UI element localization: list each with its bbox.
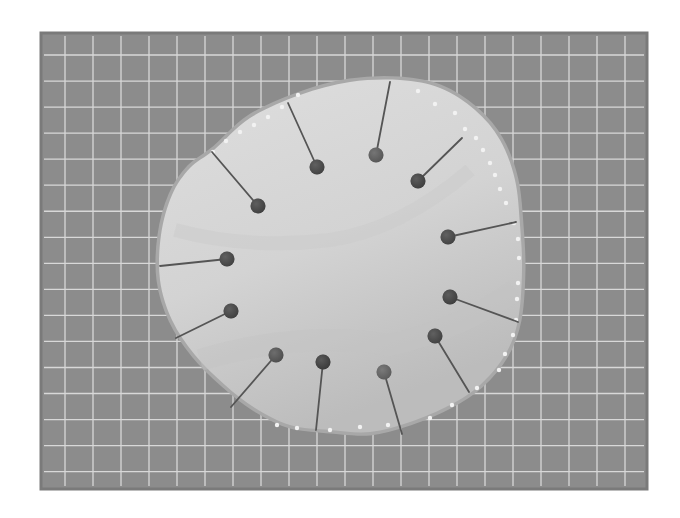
pin-head-highlight: [377, 365, 392, 380]
pin-head-highlight: [369, 148, 384, 163]
pin-head-highlight: [220, 252, 235, 267]
edge-dot: [416, 89, 420, 93]
edge-dot: [517, 256, 521, 260]
edge-dot: [328, 428, 332, 432]
edge-dot: [498, 187, 502, 191]
edge-dot: [275, 423, 279, 427]
edge-dot: [453, 111, 457, 115]
pin-head-highlight: [441, 230, 456, 245]
edge-dot: [493, 173, 497, 177]
edge-dot: [280, 105, 284, 109]
pin-head-highlight: [310, 160, 325, 175]
edge-dot: [450, 403, 454, 407]
edge-dot: [428, 416, 432, 420]
edge-dot: [224, 139, 228, 143]
pin-head-highlight: [224, 304, 239, 319]
edge-dot: [238, 130, 242, 134]
edge-dot: [504, 201, 508, 205]
pin-head-highlight: [443, 290, 458, 305]
edge-dot: [266, 115, 270, 119]
edge-dot: [463, 127, 467, 131]
edge-dot: [503, 352, 507, 356]
edge-dot: [433, 102, 437, 106]
pin-head-highlight: [411, 174, 426, 189]
edge-dot: [515, 297, 519, 301]
pin-head-highlight: [251, 199, 266, 214]
edge-dot: [474, 136, 478, 140]
edge-dot: [295, 426, 299, 430]
photo-scene: [0, 0, 680, 518]
edge-dot: [511, 333, 515, 337]
edge-dot: [252, 123, 256, 127]
edge-dot: [516, 237, 520, 241]
pin-head-highlight: [269, 348, 284, 363]
edge-dot: [358, 425, 362, 429]
edge-dot: [497, 368, 501, 372]
pin-head-highlight: [316, 355, 331, 370]
edge-dot: [475, 386, 479, 390]
edge-dot: [296, 93, 300, 97]
edge-dot: [481, 148, 485, 152]
pin-head-highlight: [428, 329, 443, 344]
edge-dot: [516, 281, 520, 285]
edge-dot: [488, 161, 492, 165]
edge-dot: [386, 423, 390, 427]
